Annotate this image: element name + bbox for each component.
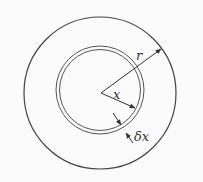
thickness-arrow-inner — [113, 113, 121, 125]
thickness-arrow-outer — [126, 133, 133, 143]
concentric-circles-diagram: r x δx — [0, 0, 203, 182]
outer-radius-arrow — [101, 49, 161, 93]
shell-inner-circle — [60, 50, 141, 131]
diagram-canvas: r x δx — [0, 0, 203, 182]
outer-circle — [24, 17, 176, 169]
shell-thickness-label: δx — [134, 129, 150, 144]
shell-radius-label: x — [113, 87, 121, 102]
outer-radius-label: r — [136, 48, 143, 63]
shell-outer-circle — [56, 46, 144, 134]
